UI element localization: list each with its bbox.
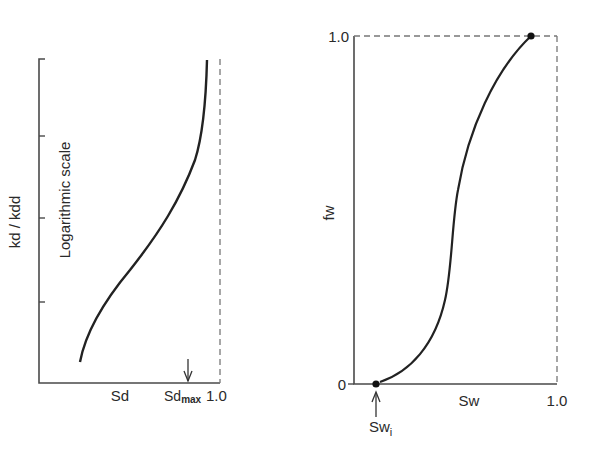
swi-label: Swi — [369, 418, 392, 438]
left-x-end-label: 1.0 — [206, 387, 227, 404]
end-point — [527, 32, 534, 39]
swi-point — [372, 380, 379, 387]
left-y-ticks — [39, 136, 45, 302]
left-y-label: kd / kdd — [6, 196, 23, 249]
right-x-label: Sw — [459, 392, 480, 409]
right-curve — [380, 36, 531, 382]
right-y-label: fw — [320, 205, 337, 220]
sdmax-label: Sdmax — [164, 388, 202, 405]
left-curve — [80, 60, 207, 362]
sdmax-arrow — [184, 359, 192, 381]
figure-canvas: kd / kdd Logarithmic scale Sd Sdmax 1.0 … — [0, 0, 590, 465]
left-plot: kd / kdd Logarithmic scale Sd Sdmax 1.0 — [6, 59, 227, 405]
right-x-end-label: 1.0 — [547, 392, 568, 409]
log-scale-label: Logarithmic scale — [56, 142, 73, 259]
swi-arrow — [372, 392, 380, 417]
right-plot: fw 1.0 0 Sw 1.0 Swi — [320, 28, 567, 438]
y-zero-label: 0 — [338, 376, 346, 393]
left-x-label: Sd — [111, 387, 129, 404]
y-top-label: 1.0 — [328, 28, 349, 45]
